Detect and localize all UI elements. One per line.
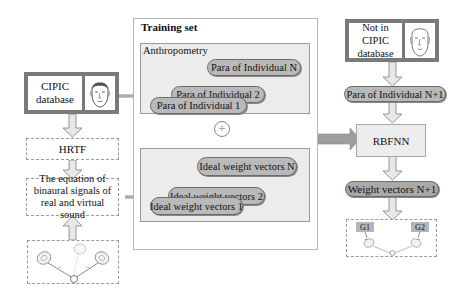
cipic-label-line1: CIPIC bbox=[41, 80, 69, 92]
arrow-cipic-to-hrtf bbox=[63, 114, 82, 137]
cipic-database-box: CIPIC database bbox=[24, 72, 119, 114]
loudspeakers-and-head-icon bbox=[28, 241, 120, 285]
ideal-weight-vectors-1: Ideal weight vectors 1 bbox=[150, 197, 243, 215]
face-icon bbox=[85, 76, 115, 110]
arrow-weight-to-output bbox=[383, 195, 402, 220]
anthropometry-label: Anthropometry bbox=[143, 45, 208, 56]
equation-line3: real and virtual sound bbox=[41, 197, 105, 220]
arrow-notcipic-to-para bbox=[383, 62, 402, 86]
cipic-label-line2: database bbox=[36, 93, 74, 105]
hrtf-box: HRTF bbox=[26, 138, 119, 160]
para-individual-n: Para of Individual N bbox=[207, 59, 301, 76]
rbfnn-box: RBFNN bbox=[356, 124, 426, 157]
loudspeakers-and-head-icon bbox=[347, 220, 438, 258]
para-individual-1: Para of Individual 1 bbox=[150, 97, 247, 114]
plus-icon: + bbox=[214, 121, 230, 137]
sound-scene-box bbox=[27, 240, 119, 284]
equation-line2: binaural signals of bbox=[34, 185, 112, 196]
hrtf-label: HRTF bbox=[59, 143, 86, 155]
not-in-cipic-box: Not in CIPIC database bbox=[345, 19, 439, 62]
equation-line1: The equation of bbox=[39, 173, 105, 184]
not-in-cipic-line2: database bbox=[357, 48, 393, 59]
ideal-weight-vectors-n: Ideal weight vectors N bbox=[197, 157, 297, 176]
training-set-title: Training set bbox=[141, 21, 197, 33]
binaural-equation-box: The equation of binaural signals of real… bbox=[26, 178, 119, 216]
arrow-para-to-rbfnn bbox=[383, 101, 402, 123]
weight-vectors-n-plus-1: Weight vectors N+1 bbox=[345, 181, 439, 197]
not-in-cipic-line1: Not in CIPIC bbox=[362, 22, 389, 46]
face-icon bbox=[405, 23, 435, 58]
para-individual-n-plus-1: Para of Individual N+1 bbox=[344, 86, 446, 102]
arrow-rbfnn-to-weight bbox=[383, 156, 402, 180]
arrow-training-to-rbfnn bbox=[316, 128, 360, 150]
output-scene-box: G1 G2 bbox=[346, 219, 437, 257]
rbfnn-label: RBFNN bbox=[373, 135, 410, 147]
